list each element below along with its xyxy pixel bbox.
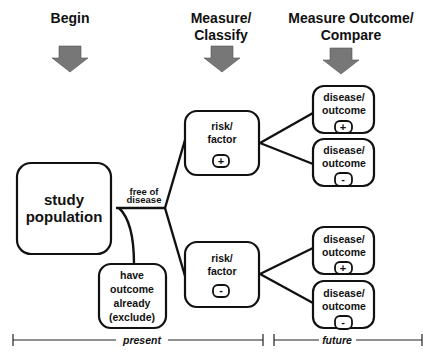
node-outcome-2: disease/ outcome - [313,139,374,186]
header-begin: Begin [51,10,90,26]
svg-text:disease/: disease/ [323,91,365,103]
down-arrow-icon [323,48,359,74]
minus-sign-icon: - [335,316,352,329]
svg-text:-: - [219,284,223,296]
timeline-future: future [274,334,422,346]
svg-text:outcome: outcome [110,283,154,295]
svg-text:(exclude): (exclude) [109,311,155,323]
node-study-population: study population [17,163,111,254]
node-outcome-1: disease/ outcome + [313,86,374,133]
label-free-of-disease: free of disease [127,186,162,205]
header-measure-line1: Measure/ [191,10,252,26]
svg-text:disease/: disease/ [323,287,365,299]
node-risk-factor-negative: risk/ factor - [185,242,259,307]
cohort-study-diagram: Begin Measure/ Classify Measure Outcome/… [0,0,434,360]
down-arrow-icon [204,46,240,72]
svg-text:already: already [114,297,151,309]
svg-text:factor: factor [207,133,236,145]
svg-text:-: - [341,173,345,185]
node-have-outcome-already-exclude: have outcome already (exclude) [99,264,166,328]
svg-text:present: present [122,334,161,346]
svg-text:+: + [218,155,224,167]
svg-text:outcome: outcome [322,104,366,116]
node-outcome-3: disease/ outcome + [313,227,374,274]
down-arrow-icon [52,46,88,72]
timeline-present: present [13,334,263,346]
node-risk-factor-positive: risk/ factor + [185,111,259,175]
svg-text:risk/: risk/ [211,120,233,132]
svg-text:outcome: outcome [322,246,366,258]
minus-sign-icon: - [335,173,352,186]
svg-text:disease: disease [127,194,162,205]
svg-text:-: - [341,316,345,328]
svg-text:+: + [340,262,346,274]
header-outcome-line1: Measure Outcome/ [288,10,413,26]
svg-text:have: have [120,269,144,281]
svg-text:+: + [340,121,346,133]
plus-sign-icon: + [335,262,352,274]
svg-text:disease/: disease/ [323,144,365,156]
svg-text:outcome: outcome [322,157,366,169]
plus-sign-icon: + [213,155,229,167]
svg-text:population: population [26,208,103,225]
header-outcome-line2: Compare [321,27,382,43]
svg-text:future: future [322,334,352,346]
svg-text:factor: factor [207,265,236,277]
node-outcome-4: disease/ outcome - [313,281,374,329]
svg-text:study: study [44,191,85,208]
svg-text:outcome: outcome [322,300,366,312]
minus-sign-icon: - [213,284,229,297]
svg-text:disease/: disease/ [323,233,365,245]
plus-sign-icon: + [335,121,352,133]
header-measure-line2: Classify [194,27,248,43]
svg-text:risk/: risk/ [211,252,233,264]
